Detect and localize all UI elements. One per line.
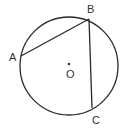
label-c: C xyxy=(92,114,100,126)
label-b: B xyxy=(87,3,94,15)
chord-bc xyxy=(89,19,92,108)
label-a: A xyxy=(9,51,17,63)
diagram-canvas: A B C O xyxy=(0,0,123,130)
label-o: O xyxy=(66,68,75,80)
center-dot xyxy=(68,63,70,65)
circle-diagram: A B C O xyxy=(0,0,123,130)
circle-o xyxy=(20,17,118,115)
chord-ab xyxy=(21,19,89,56)
